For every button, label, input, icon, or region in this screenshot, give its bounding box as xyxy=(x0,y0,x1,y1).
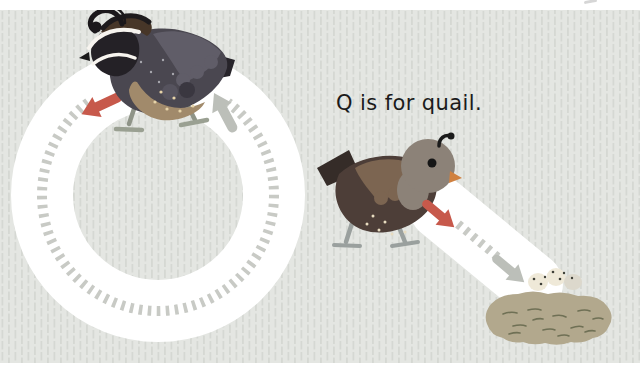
quail-foot xyxy=(334,245,360,246)
stray-mark xyxy=(584,0,597,4)
nest-body xyxy=(486,292,612,345)
nest-illustration xyxy=(486,292,612,345)
quail-eye xyxy=(428,159,437,168)
wing-scallop xyxy=(204,55,218,69)
caption-text: Q is for quail. xyxy=(336,91,482,115)
egg xyxy=(547,268,566,286)
quail-foot xyxy=(116,129,142,130)
wing-scallop xyxy=(190,65,204,79)
plume-tip xyxy=(448,133,455,140)
feather-scallop xyxy=(162,84,178,100)
egg xyxy=(528,273,548,291)
scene-canvas xyxy=(0,10,640,363)
feather-scallop xyxy=(179,82,195,98)
wing-scallop xyxy=(374,191,388,205)
quail-head xyxy=(401,139,455,193)
illustration-scene xyxy=(0,10,640,363)
egg xyxy=(564,274,582,290)
plume-tip xyxy=(91,22,102,33)
